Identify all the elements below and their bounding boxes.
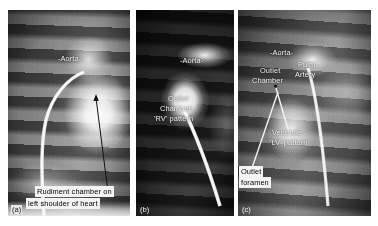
outlet-chamber-label-b-line2: Chamber-	[160, 104, 194, 113]
pulmonary-artery-label-line2: Artery	[295, 70, 315, 79]
panel-a: -Aorta- Rudiment chamber on left shoulde…	[8, 10, 130, 216]
annotation-arrow-a	[96, 98, 108, 192]
ventricle-label-line1: Ventricle -	[272, 128, 306, 137]
panel-letter-a: (a)	[11, 205, 22, 214]
aorta-label-c: -Aorta-	[270, 48, 293, 57]
outlet-foramen-label-line1: Outlet	[239, 166, 263, 177]
aorta-label-b: -Aorta-	[180, 56, 203, 65]
arrowhead-a	[93, 94, 98, 101]
aorta-label-a: -Aorta-	[58, 54, 81, 63]
rudiment-chamber-label-line1: Rudiment chamber on	[35, 186, 114, 197]
panel-c: -Aorta- Outlet Chamber Pulm. Artery Vent…	[238, 10, 371, 216]
outlet-chamber-label-c-line2: Chamber	[252, 76, 283, 85]
catheter-line-c	[308, 68, 328, 206]
panel-b: -Aorta- Outlet Chamber- 'RV' pattern (b)	[136, 10, 234, 216]
panel-letter-b: (b)	[139, 205, 150, 214]
ventricle-label-line2: 'LV' pattern	[270, 138, 308, 147]
rudiment-chamber-label-line2: left shoulder of heart	[26, 198, 100, 209]
outlet-chamber-label-b-line3: 'RV' pattern	[154, 114, 193, 123]
figure-triptych: -Aorta- Rudiment chamber on left shoulde…	[0, 0, 378, 226]
panel-letter-c: (c)	[241, 205, 252, 214]
outlet-chamber-label-b-line1: Outlet	[168, 94, 188, 103]
outlet-chamber-label-c-line1: Outlet	[260, 66, 280, 75]
overlay-b	[136, 10, 234, 216]
pulmonary-artery-label-line1: Pulm.	[298, 60, 317, 69]
outlet-foramen-label-line2: foramen	[239, 177, 271, 188]
